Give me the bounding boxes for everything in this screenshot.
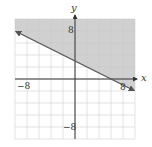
y-axis-label: y: [71, 3, 77, 13]
y-tick-8: 8: [68, 26, 74, 35]
x-tick-8: 8: [120, 83, 126, 92]
y-tick-neg8: −8: [63, 123, 76, 132]
x-axis-label: x: [141, 73, 147, 83]
x-tick-neg8: −8: [17, 82, 30, 91]
